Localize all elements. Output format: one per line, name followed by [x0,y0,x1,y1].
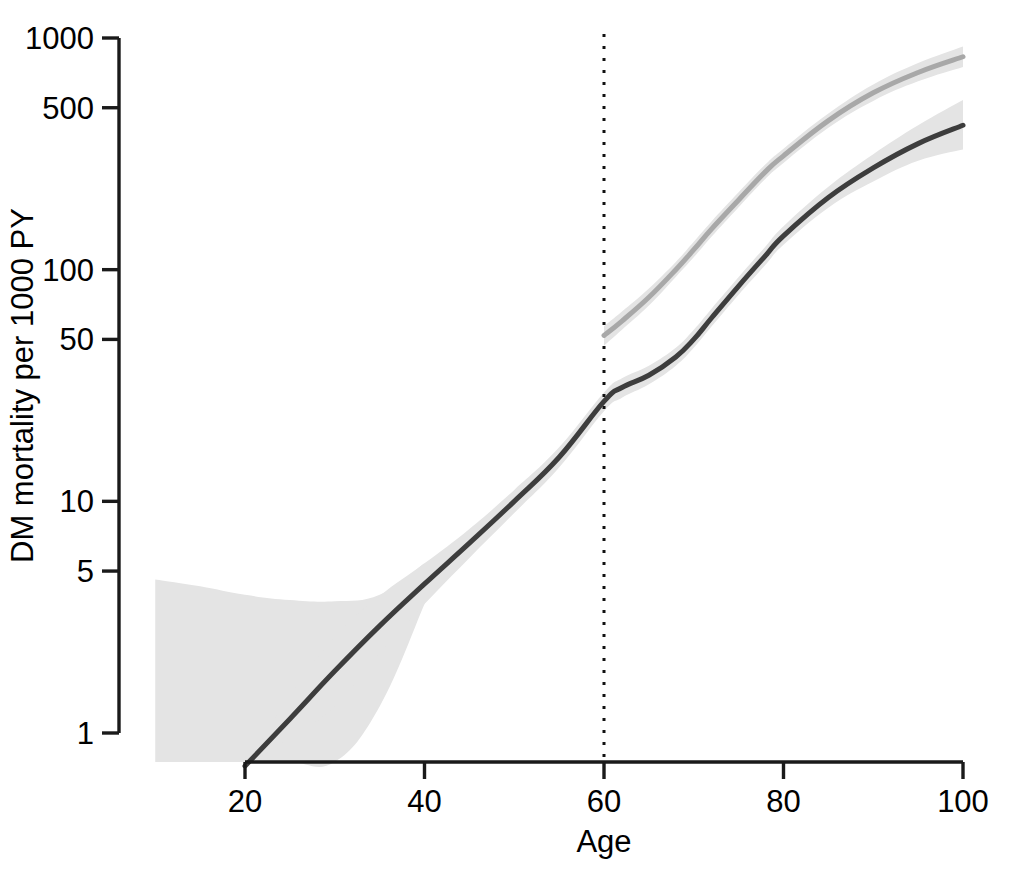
x-tick-label: 80 [766,784,800,819]
light-curve-ci-band [604,46,963,345]
y-tick-label: 10 [60,484,94,519]
x-axis-title: Age [576,824,631,859]
y-tick-label: 50 [60,322,94,357]
confidence-bands [155,46,963,767]
y-tick-label: 100 [42,253,94,288]
x-axis-ticks: 20406080100 [228,762,989,819]
y-axis-title: DM mortality per 1000 PY [5,208,40,563]
y-tick-label: 1000 [25,21,94,56]
y-tick-label: 5 [77,554,94,589]
x-tick-label: 100 [937,784,989,819]
y-tick-label: 500 [42,91,94,126]
x-tick-label: 20 [228,784,262,819]
chart-figure: 1510501005001000 20406080100 Age DM mort… [0,0,1013,881]
dm-mortality-by-age-chart: 1510501005001000 20406080100 Age DM mort… [0,0,1013,881]
dark-curve-ci-band [245,100,963,766]
x-tick-label: 40 [407,784,441,819]
y-tick-label: 1 [77,716,94,751]
x-tick-label: 60 [587,784,621,819]
